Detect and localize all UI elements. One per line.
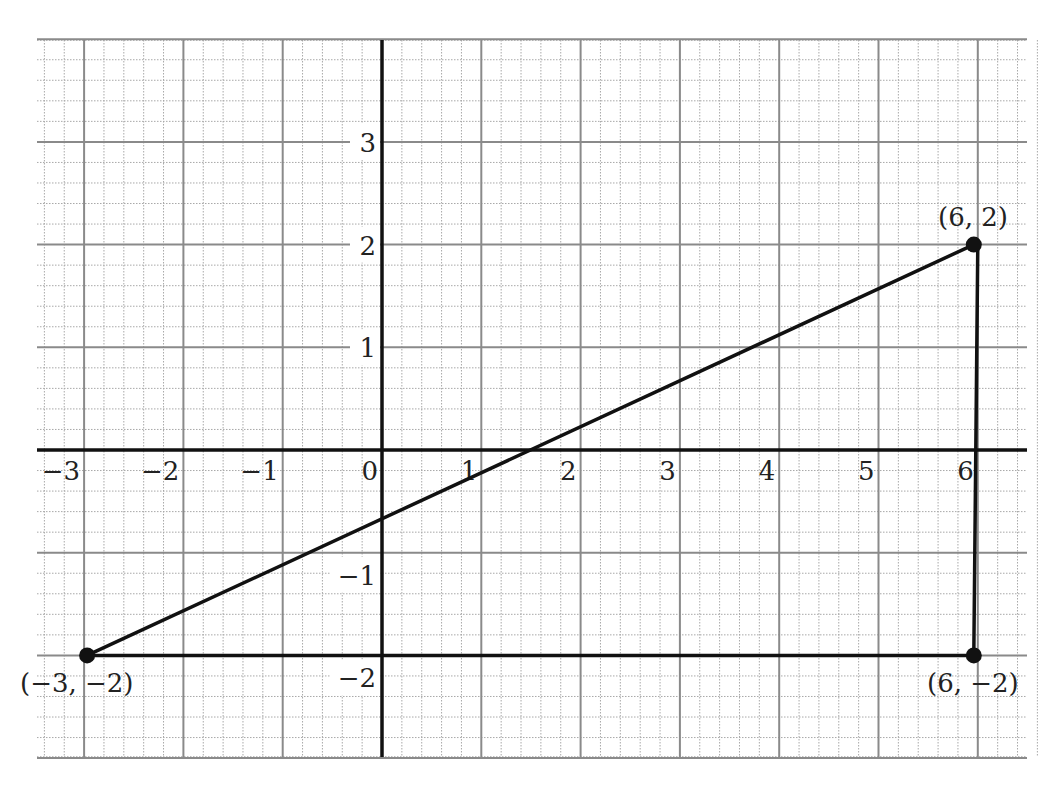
y-tick-label: −2 (338, 663, 376, 693)
point-label-6-2: (6, 2) (938, 202, 1008, 232)
y-tick-label: −1 (338, 561, 376, 591)
major-grid (37, 39, 1027, 758)
minor-grid (37, 40, 1037, 757)
vertex-point (966, 237, 982, 253)
x-tick-label: 3 (659, 456, 676, 486)
vertex-point (79, 647, 95, 663)
y-tick-label: 3 (359, 128, 376, 158)
x-tick-label: 2 (560, 456, 577, 486)
point-label-6-neg2: (6, −2) (927, 668, 1019, 698)
y-tick-label: 2 (359, 231, 376, 261)
x-tick-label: 0 (361, 456, 378, 486)
coordinate-plane: 321−1−2−3−2−10123456 (−3, −2) (6, 2) (6,… (0, 0, 1062, 789)
vertex-point (966, 647, 982, 663)
x-tick-label: −3 (42, 456, 80, 486)
x-tick-label: 5 (858, 456, 875, 486)
x-tick-label: −2 (141, 456, 179, 486)
tick-labels: 321−1−2−3−2−10123456 (42, 124, 974, 696)
x-tick-label: 6 (957, 456, 974, 486)
y-tick-label: 1 (359, 333, 376, 363)
point-label-neg3-neg2: (−3, −2) (20, 668, 133, 698)
x-tick-label: 4 (759, 456, 776, 486)
x-tick-label: −1 (240, 456, 278, 486)
